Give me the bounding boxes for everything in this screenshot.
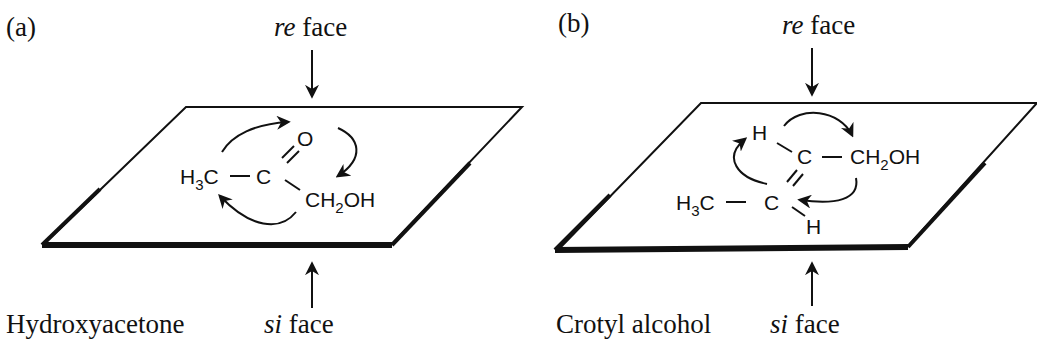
oxygen-atom: O <box>297 127 313 150</box>
panel-b-plane <box>555 103 1037 250</box>
stereochemistry-diagram: (a) re face H3C C O CH2OH Hyd <box>0 0 1037 340</box>
molecule-name-hydroxyacetone: Hydroxyacetone <box>6 309 184 339</box>
curved-arrow-icon <box>784 113 852 135</box>
panel-a-si-face-label: si face <box>264 309 334 339</box>
curved-arrow-icon <box>222 122 288 152</box>
methyl-group: H3C <box>676 191 715 219</box>
alkene-carbon-upper: C <box>797 145 812 168</box>
panel-b-label: (b) <box>558 8 589 38</box>
hydroxymethyl-group: CH2OH <box>305 188 375 216</box>
panel-a: (a) re face H3C C O CH2OH Hyd <box>6 12 522 339</box>
hydrogen-atom-bottom: H <box>806 215 821 238</box>
panel-a-plane <box>42 107 522 245</box>
curved-arrow-icon <box>800 178 856 202</box>
curved-arrow-icon <box>220 196 296 224</box>
panel-b: (b) re face H C CH2OH H3C C H <box>555 8 1037 339</box>
panel-b-re-face-label: re face <box>782 10 855 40</box>
panel-b-si-face-label: si face <box>770 309 840 339</box>
methyl-group: H3C <box>180 165 219 193</box>
curved-arrow-icon <box>734 139 767 184</box>
hydroxymethyl-group: CH2OH <box>850 145 920 173</box>
curved-arrow-icon <box>338 128 356 176</box>
panel-a-label: (a) <box>6 12 36 42</box>
hydroxyacetone-structure: H3C C O CH2OH <box>180 122 375 224</box>
alkene-carbon-lower: C <box>764 191 779 214</box>
hydrogen-atom-top: H <box>752 121 767 144</box>
crotyl-alcohol-structure: H C CH2OH H3C C H <box>676 113 920 238</box>
carbonyl-carbon: C <box>256 165 271 188</box>
molecule-name-crotyl-alcohol: Crotyl alcohol <box>556 309 711 339</box>
panel-a-re-face-label: re face <box>274 12 347 42</box>
